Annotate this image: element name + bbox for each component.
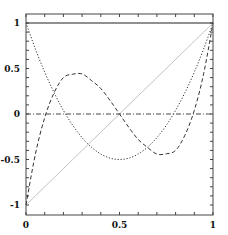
x-tick-label: 0.5: [112, 220, 128, 230]
series-layer: [26, 23, 213, 205]
y-tick-label: 0: [14, 109, 20, 119]
x-tick-label: 0: [23, 220, 29, 230]
y-tick-label: -0.5: [1, 155, 20, 165]
y-axis-tick-labels: 10.50-0.5-1: [1, 18, 20, 210]
y-tick-label: 0.5: [4, 64, 20, 74]
chart-canvas: 00.51 10.50-0.5-1: [0, 0, 228, 235]
y-tick-label: 1: [14, 18, 20, 28]
x-axis-tick-labels: 00.51: [23, 220, 216, 230]
x-tick-label: 1: [210, 220, 216, 230]
series-line-dotted: [26, 23, 213, 160]
y-tick-label: -1: [10, 200, 20, 210]
